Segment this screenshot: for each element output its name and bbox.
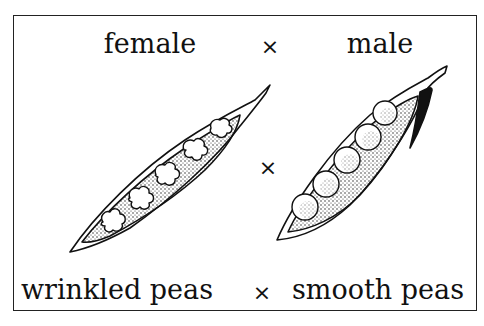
pea-pod-illustration <box>0 0 484 326</box>
male-pod-icon <box>277 66 447 240</box>
female-pod-icon <box>70 85 270 252</box>
